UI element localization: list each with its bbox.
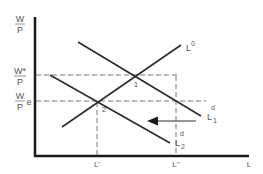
l-prime-tick-label: L' (94, 160, 100, 169)
demand-curve-2-label-base: L (175, 138, 180, 148)
supply-curve-label: L0 (186, 40, 195, 53)
equilibrium-point-2-label: 2 (102, 105, 107, 114)
w-star-tick-numerator: W* (14, 66, 26, 76)
w-e-tick-suffix: e (26, 97, 31, 107)
l-double-prime-tick-label: L'' (172, 160, 180, 169)
demand-curve-1-label-base: L (207, 112, 212, 122)
demand-curve-1-label-sub: 1 (213, 117, 217, 124)
labor-demand-curve-2 (50, 75, 170, 143)
demand-curve-2-label-sup: d (180, 130, 184, 137)
supply-curve-label-sup: 0 (191, 40, 195, 47)
y-axis-label-denominator: P (17, 25, 23, 35)
arrow-left-icon (147, 117, 158, 126)
demand-curve-2-label-sub: 2 (181, 143, 185, 150)
y-axis-label-numerator: W (16, 14, 25, 24)
demand-curve-1-label-sup: d (211, 104, 215, 111)
equilibrium-point-1-label: 1 (134, 80, 139, 89)
w-e-tick-numerator: W (16, 91, 25, 101)
labor-market-diagram: W P W* P W P e L' L'' L L0 L d 1 L d 2 1… (0, 0, 263, 174)
x-axis-label: L (247, 160, 252, 169)
labor-demand-curve-1 (78, 42, 201, 116)
w-star-tick-denominator: P (17, 77, 23, 87)
w-e-tick-denominator: P (17, 102, 23, 112)
